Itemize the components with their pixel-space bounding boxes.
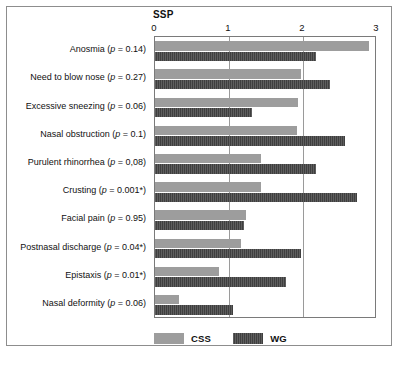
bar-group [155, 178, 375, 206]
category-label: Need to blow nose (p = 0.27) [30, 72, 146, 83]
bar-fill [155, 267, 219, 277]
chart-title: SSP [153, 9, 174, 20]
bar-fill [155, 126, 297, 136]
category-label: Epistaxis (p = 0.01*) [65, 270, 146, 281]
bar-fill [155, 193, 357, 203]
bar-fill [155, 154, 261, 164]
bar-css[interactable] [155, 69, 377, 79]
legend-label-wg: WG [270, 333, 287, 344]
category-label: Excessive sneezing (p = 0.06) [26, 101, 146, 112]
bar-wg[interactable] [155, 80, 377, 90]
bar-fill [155, 249, 301, 259]
bar-group [155, 122, 375, 150]
bar-group [155, 150, 375, 178]
category-label: Postnasal discharge (p = 0.04*) [20, 242, 146, 253]
category-label: Anosmia (p = 0.14) [70, 44, 146, 55]
bar-fill [155, 136, 345, 146]
p-symbol: p [107, 242, 112, 252]
p-symbol: p [110, 213, 115, 223]
p-symbol: p [102, 185, 107, 195]
bar-wg[interactable] [155, 305, 377, 315]
bar-css[interactable] [155, 154, 377, 164]
bar-groups [155, 37, 375, 317]
bar-group [155, 263, 375, 291]
bar-wg[interactable] [155, 136, 377, 146]
bar-group [155, 291, 375, 319]
p-symbol: p [115, 129, 120, 139]
bar-wg[interactable] [155, 249, 377, 259]
category-label: Crusting (p = 0.001*) [63, 185, 146, 196]
bar-fill [155, 41, 369, 51]
p-symbol: p [110, 44, 115, 54]
p-symbol: p [110, 298, 115, 308]
bar-fill [155, 239, 241, 249]
bar-fill [155, 210, 246, 220]
legend-swatch-css [154, 333, 184, 344]
x-tick-label-1: 1 [225, 22, 230, 33]
bar-fill [155, 52, 316, 62]
bar-wg[interactable] [155, 164, 377, 174]
bar-css[interactable] [155, 295, 377, 305]
bar-fill [155, 108, 252, 118]
chart-legend: CSSWG [154, 330, 376, 346]
bar-fill [155, 305, 233, 315]
x-tick-label-3: 3 [373, 22, 378, 33]
legend-item-wg[interactable]: WG [233, 333, 287, 344]
bar-group [155, 37, 375, 65]
bar-fill [155, 69, 301, 79]
p-symbol: p [107, 270, 112, 280]
x-tick-label-2: 2 [299, 22, 304, 33]
bar-css[interactable] [155, 267, 377, 277]
bar-group [155, 93, 375, 121]
category-label: Purulent rhinorrhea (p = 0,08) [28, 157, 146, 168]
legend-label-css: CSS [191, 333, 211, 344]
p-symbol: p [110, 72, 115, 82]
bar-group [155, 206, 375, 234]
category-label: Facial pain (p = 0.95) [61, 213, 146, 224]
bar-wg[interactable] [155, 221, 377, 231]
category-label: Nasal deformity (p = 0.06) [42, 298, 146, 309]
category-axis-labels: Anosmia (p = 0.14)Need to blow nose (p =… [10, 36, 150, 318]
bar-fill [155, 98, 298, 108]
bar-wg[interactable] [155, 108, 377, 118]
bar-wg[interactable] [155, 52, 377, 62]
category-label: Nasal obstruction (p = 0.1) [40, 129, 146, 140]
legend-item-css[interactable]: CSS [154, 333, 211, 344]
bar-css[interactable] [155, 182, 377, 192]
bar-group [155, 65, 375, 93]
bar-fill [155, 221, 244, 231]
x-axis-tick-labels: 0123 [154, 22, 376, 35]
legend-swatch-wg [233, 333, 263, 344]
bar-wg[interactable] [155, 277, 377, 287]
x-tick-label-0: 0 [151, 22, 156, 33]
p-symbol: p [110, 157, 115, 167]
bar-css[interactable] [155, 126, 377, 136]
bar-css[interactable] [155, 239, 377, 249]
bar-fill [155, 164, 316, 174]
bar-fill [155, 295, 179, 305]
bar-css[interactable] [155, 210, 377, 220]
bar-fill [155, 182, 261, 192]
bar-fill [155, 277, 286, 287]
p-symbol: p [110, 101, 115, 111]
plot-area [154, 36, 376, 318]
bar-css[interactable] [155, 98, 377, 108]
bar-css[interactable] [155, 41, 377, 51]
bar-fill [155, 80, 330, 90]
bar-wg[interactable] [155, 193, 377, 203]
bar-group [155, 234, 375, 262]
figure-container: SSP 0123 Anosmia (p = 0.14)Need to blow … [0, 0, 399, 367]
